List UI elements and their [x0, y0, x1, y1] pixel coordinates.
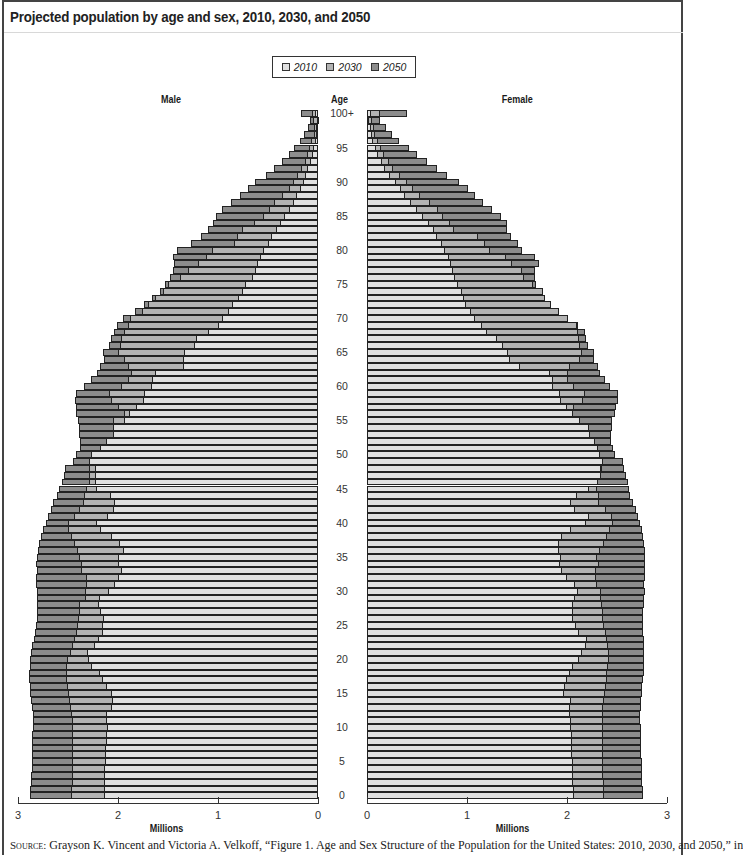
bar-male-2010	[113, 431, 318, 438]
bar-male-2010	[317, 117, 319, 124]
bar-male-2010	[238, 295, 318, 302]
age-tick-label: 30	[322, 585, 362, 597]
bar-female-2010	[367, 724, 571, 731]
bar-male-2010	[155, 370, 318, 377]
bar-female-2010	[367, 417, 580, 424]
bar-male-2010	[105, 751, 318, 758]
bar-female-2010	[367, 608, 573, 615]
x-tick-label: 3	[8, 809, 28, 821]
bar-female-2010	[367, 751, 572, 758]
bar-male-2010	[296, 192, 318, 199]
bar-female-2010	[367, 683, 565, 690]
bar-male-2010	[88, 656, 318, 663]
bar-male-2010	[91, 663, 318, 670]
x-tick	[667, 797, 668, 803]
bar-male-2010	[303, 179, 318, 186]
bar-male-2010	[107, 513, 318, 520]
bar-female-2010	[367, 308, 471, 315]
bar-female-2010	[367, 465, 601, 472]
bar-female-2010	[367, 138, 373, 145]
bar-male-2010	[184, 349, 318, 356]
age-tick-label: 55	[322, 414, 362, 426]
bar-male-2010	[313, 145, 318, 152]
bar-male-2010	[107, 724, 318, 731]
bar-male-2010	[196, 335, 318, 342]
bar-female-2010	[367, 356, 510, 363]
bar-female-2010	[367, 622, 576, 629]
bar-male-2010	[106, 731, 318, 738]
bar-female-2010	[367, 383, 553, 390]
bar-female-2010	[367, 172, 390, 179]
bar-male-2010	[96, 520, 318, 527]
male-x-axis-title: Millions	[150, 823, 184, 834]
bar-male-2010	[228, 308, 318, 315]
bar-female-2010	[367, 240, 442, 247]
bar-male-2010	[218, 322, 318, 329]
bar-female-2010	[367, 772, 573, 779]
female-label: Female	[502, 94, 533, 105]
bar-female-2010	[367, 445, 598, 452]
bar-male-2010	[315, 110, 318, 117]
bar-male-2010	[252, 274, 318, 281]
bar-male-2010	[98, 636, 318, 643]
bar-male-2010	[114, 581, 318, 588]
bar-female-2010	[367, 676, 567, 683]
x-tick	[467, 797, 468, 803]
bar-male-2010	[268, 240, 318, 247]
bar-male-2010	[94, 642, 318, 649]
bar-male-2010	[307, 165, 318, 172]
bar-female-2010	[367, 758, 573, 765]
x-tick-label: 0	[357, 809, 377, 821]
bar-female-2010	[367, 506, 575, 513]
bar-female-2010	[367, 295, 464, 302]
bar-female-2010	[367, 731, 572, 738]
legend-label-2030: 2030	[338, 61, 361, 73]
age-tick-label: 95	[322, 142, 362, 154]
bar-female-2010	[367, 581, 575, 588]
bar-female-2010	[367, 145, 376, 152]
bar-female-2010	[367, 254, 449, 261]
bar-female-2010	[367, 376, 553, 383]
bar-female-2010	[367, 492, 577, 499]
bar-male-2010	[118, 554, 318, 561]
age-tick-label: 50	[322, 448, 362, 460]
male-label: Male	[161, 94, 181, 105]
age-tick-label: 100+	[322, 107, 362, 119]
bar-female-2010	[367, 131, 372, 138]
bar-female-2010	[367, 526, 571, 533]
bar-male-2010	[118, 574, 318, 581]
bar-male-2010	[208, 329, 318, 336]
age-tick-label: 90	[322, 176, 362, 188]
bar-male-2010	[106, 438, 318, 445]
bar-female-2010	[367, 281, 458, 288]
bar-female-2010	[367, 390, 560, 397]
bar-male-2010	[96, 486, 318, 493]
bar-male-2010	[104, 786, 318, 793]
legend-item-2010: 2010	[282, 61, 317, 73]
x-tick-label: 1	[457, 809, 477, 821]
bar-male-2010	[106, 711, 318, 718]
bar-male-2010	[102, 629, 318, 636]
bar-female-2010	[367, 233, 437, 240]
bar-male-2010	[102, 622, 318, 629]
bar-female-2010	[367, 370, 550, 377]
bar-male-2010	[104, 779, 318, 786]
bar-male-2010	[152, 376, 318, 383]
bar-female-2010	[367, 513, 589, 520]
bar-female-2010	[367, 179, 396, 186]
bar-male-2010	[232, 301, 318, 308]
bar-male-2010	[124, 417, 318, 424]
bar-male-2010	[300, 185, 318, 192]
female-x-axis-title: Millions	[496, 823, 530, 834]
bar-female-2010	[367, 567, 562, 574]
bar-female-2010	[367, 213, 423, 220]
x-tick-label: 2	[557, 809, 577, 821]
bar-female-2010	[367, 151, 378, 158]
bar-male-2010	[103, 615, 318, 622]
bar-male-2010	[271, 233, 318, 240]
age-tick-label: 60	[322, 380, 362, 392]
x-tick	[567, 797, 568, 803]
x-tick-label: 2	[108, 809, 128, 821]
bar-female-2010	[367, 110, 371, 117]
source-text: Grayson K. Vincent and Victoria A. Velko…	[46, 838, 743, 852]
